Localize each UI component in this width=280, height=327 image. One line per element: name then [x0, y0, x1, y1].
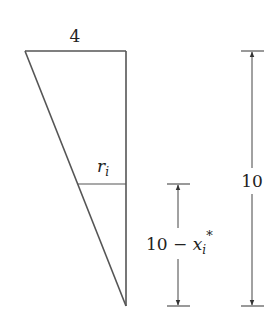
total-height-dimension: 10: [241, 51, 264, 306]
radius-label: ri: [97, 156, 109, 179]
partial-height-prefix: 10 −: [146, 234, 193, 254]
partial-height-sub: i: [202, 243, 206, 257]
partial-height-var: x: [193, 234, 203, 254]
partial-height-label: 10 − xi*: [146, 228, 213, 257]
total-height-label: 10: [241, 171, 263, 191]
triangle-hypotenuse: [25, 51, 126, 306]
triangle: [25, 51, 126, 306]
partial-height-dimension: 10 − xi*: [146, 184, 213, 306]
top-width-label: 4: [70, 26, 81, 46]
cone-diagram: 4 ri 10 10 − xi*: [0, 0, 280, 327]
radius-sub: i: [105, 165, 109, 179]
partial-height-sup: *: [206, 228, 213, 243]
